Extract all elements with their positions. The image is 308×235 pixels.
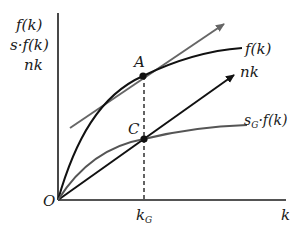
nk-line-label: nk <box>240 63 259 81</box>
point-c-label: C <box>128 120 140 138</box>
y-label-sf: s·f(k) <box>10 36 49 54</box>
f-curve <box>58 48 242 200</box>
x-axis-label: k <box>281 206 290 224</box>
origin-label: O <box>43 192 55 210</box>
kg-label: kG <box>136 206 152 225</box>
point-c <box>140 135 147 142</box>
sf-curve <box>58 125 247 200</box>
y-label-nk: nk <box>24 56 43 74</box>
y-label-f: f(k) <box>15 16 42 34</box>
tangent-line <box>70 24 224 128</box>
point-a-label: A <box>132 53 145 71</box>
sf-curve-label: sG·f(k) <box>244 112 287 130</box>
f-curve-label: f(k) <box>244 40 271 58</box>
golden-rule-diagram: f(k) s·f(k) nk O k A C f(k) nk sG·f(k) k… <box>0 0 308 235</box>
point-a <box>139 72 146 79</box>
